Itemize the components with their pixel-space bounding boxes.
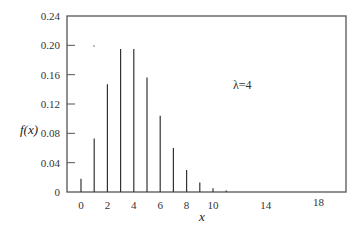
x-axis-title: x	[198, 209, 205, 224]
plot-frame	[67, 16, 346, 192]
x-tick-label: 14	[260, 199, 272, 211]
y-tick-label: 0.12	[41, 98, 60, 110]
y-tick-label: 0.08	[41, 127, 61, 139]
y-tick-label: 0.24	[41, 10, 61, 22]
lambda-annotation: λ=4	[233, 78, 252, 92]
x-tick-label: 4	[131, 199, 137, 211]
x-tick-label: 0	[78, 199, 84, 211]
y-axis-title: f(x)	[20, 122, 38, 137]
y-axis-ticks: 00.040.080.120.160.200.24	[41, 10, 75, 198]
x-tick-label: 10	[208, 199, 220, 211]
x-tick-label: 8	[184, 199, 190, 211]
poisson-chart: 00.040.080.120.160.200.24 02468101418 f(…	[0, 0, 353, 234]
stray-dot	[93, 45, 95, 47]
y-tick-label: 0.20	[41, 39, 61, 51]
x-tick-label: 18	[313, 196, 325, 208]
x-tick-label: 2	[105, 199, 111, 211]
y-tick-label: 0	[55, 186, 61, 198]
y-tick-label: 0.04	[41, 157, 61, 169]
y-tick-label: 0.16	[41, 69, 61, 81]
bars	[81, 49, 226, 192]
x-tick-label: 6	[157, 199, 163, 211]
